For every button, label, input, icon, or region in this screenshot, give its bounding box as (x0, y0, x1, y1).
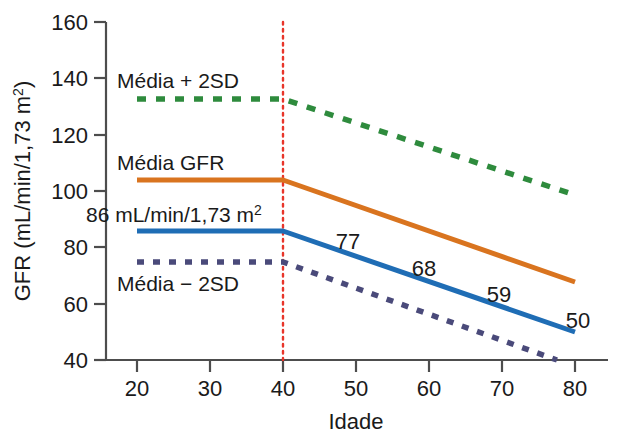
y-tick-label-60: 60 (64, 292, 88, 317)
y-axis-title-base: GFR (mL/min/1,73 m (10, 96, 35, 301)
y-tick-label-140: 140 (51, 66, 88, 91)
y-axis-title-superscript: 2 (10, 88, 26, 96)
y-tick-labels: 160 140 120 100 80 60 40 (51, 10, 88, 373)
series-label-media-mais-2sd: Média + 2SD (117, 69, 239, 92)
y-tick-label-160: 160 (51, 10, 88, 35)
series-label-media-menos-2sd: Média − 2SD (117, 272, 239, 295)
y-axis-title: GFR (mL/min/1,73 m2) (10, 81, 35, 302)
y-axis-title-group: GFR (mL/min/1,73 m2) (10, 81, 35, 302)
x-tick-label-70: 70 (490, 376, 514, 401)
series-label-paciente-86: 86 mL/min/1,73 m2 (86, 202, 262, 226)
y-tick-label-40: 40 (64, 348, 88, 373)
y-axis-title-close: ) (10, 81, 35, 88)
data-label-59: 59 (487, 282, 511, 307)
chart-svg: 160 140 120 100 80 60 40 20 30 40 50 60 … (0, 0, 617, 437)
series-label-paciente-86-base: 86 mL/min/1,73 m (86, 203, 254, 226)
x-tick-label-20: 20 (125, 376, 149, 401)
data-label-68: 68 (412, 256, 436, 281)
data-label-77: 77 (336, 229, 360, 254)
x-axis-title: Idade (328, 409, 383, 434)
gfr-age-chart: 160 140 120 100 80 60 40 20 30 40 50 60 … (0, 0, 617, 437)
series-label-media-gfr: Média GFR (117, 151, 224, 174)
y-tick-label-120: 120 (51, 123, 88, 148)
x-tick-label-80: 80 (563, 376, 587, 401)
data-label-50: 50 (566, 308, 590, 333)
x-tick-labels: 20 30 40 50 60 70 80 (125, 376, 587, 401)
x-tick-label-60: 60 (417, 376, 441, 401)
x-tick-label-40: 40 (271, 376, 295, 401)
x-tick-label-30: 30 (198, 376, 222, 401)
series-label-paciente-86-superscript: 2 (254, 202, 262, 218)
y-tick-label-80: 80 (64, 235, 88, 260)
y-tick-label-100: 100 (51, 179, 88, 204)
x-tick-label-50: 50 (344, 376, 368, 401)
